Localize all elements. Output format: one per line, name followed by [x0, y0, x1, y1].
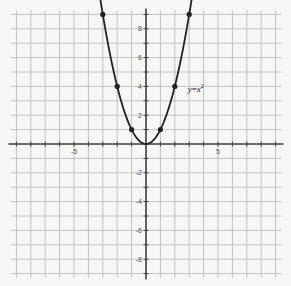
data-point: [129, 127, 134, 132]
data-point: [100, 12, 105, 17]
y-tick-label: 4: [138, 83, 142, 90]
y-tick-label: -8: [136, 256, 142, 263]
y-tick-label: 2: [138, 112, 142, 119]
parabola-chart: -558642-2-4-6-8 y=x2: [0, 0, 291, 286]
y-tick-label: -4: [136, 198, 142, 205]
data-point: [158, 127, 163, 132]
data-point: [187, 12, 192, 17]
equation-label: y=x2: [187, 83, 204, 94]
y-tick-label: 6: [138, 54, 142, 61]
x-tick-label: -5: [71, 148, 77, 155]
y-tick-label: 8: [138, 25, 142, 32]
data-point: [172, 84, 177, 89]
y-tick-label: -6: [136, 227, 142, 234]
data-point: [115, 84, 120, 89]
x-tick-label: 5: [216, 148, 220, 155]
y-tick-label: -2: [136, 169, 142, 176]
